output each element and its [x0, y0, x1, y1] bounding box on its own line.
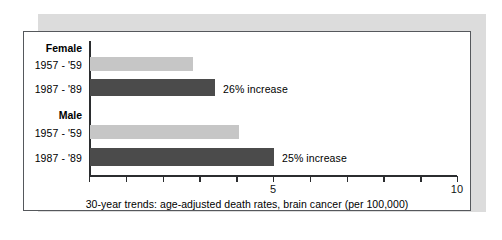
axis-tick-2 [163, 176, 164, 182]
axis-tick-9 [420, 176, 421, 182]
axis-tick-5 [273, 176, 274, 182]
axis-tick-3 [199, 176, 200, 182]
bar-female-1987-89 [90, 79, 215, 96]
axis-tick-1 [126, 176, 127, 182]
axis-tick-7 [347, 176, 348, 182]
axis-tick-label-5: 5 [270, 183, 276, 195]
axis-tick-4 [236, 176, 237, 182]
row-label-female-1987-89: 1987 - '89 [35, 83, 82, 95]
row-label-male-1987-89: 1987 - '89 [35, 152, 82, 164]
bar-female-1957-59 [90, 57, 193, 71]
bar-male-1987-89 [90, 148, 274, 166]
bar-male-1957-59 [90, 125, 239, 139]
axis-tick-label-10: 10 [451, 183, 463, 195]
figure-box: 5 10 Female 1957 - '59 1987 - '89 26% in… [23, 31, 471, 211]
group-heading-female: Female [46, 42, 82, 54]
axis-tick-10 [457, 176, 458, 182]
row-label-male-1957-59: 1957 - '59 [35, 127, 82, 139]
annotation-female-increase: 26% increase [223, 83, 288, 95]
axis-tick-8 [383, 176, 384, 182]
chart-caption: 30-year trends: age-adjusted death rates… [24, 198, 470, 210]
axis-tick-0 [89, 176, 90, 182]
group-heading-male: Male [59, 109, 82, 121]
row-label-female-1957-59: 1957 - '59 [35, 59, 82, 71]
bar-chart-plot-area: 5 10 Female 1957 - '59 1987 - '89 26% in… [24, 32, 470, 210]
annotation-male-increase: 25% increase [282, 152, 347, 164]
axis-tick-6 [310, 176, 311, 182]
